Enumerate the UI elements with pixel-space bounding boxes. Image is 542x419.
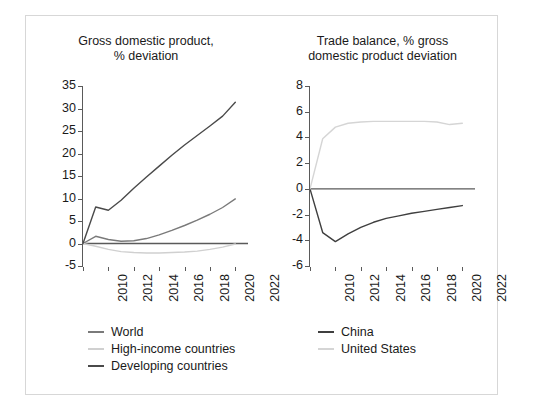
series-line xyxy=(310,189,462,242)
x-tick-label: 2012 xyxy=(369,274,381,302)
y-tick-label: -5 xyxy=(36,259,76,271)
x-tick-label: 2012 xyxy=(142,274,154,302)
chart-title-trade: Trade balance, % gross domestic product … xyxy=(266,34,499,64)
x-tick xyxy=(185,267,186,271)
legend-swatch xyxy=(88,365,104,367)
x-tick-label: 2020 xyxy=(244,274,256,302)
chart-panel-gdp: Gross domestic product, % deviation 3530… xyxy=(26,16,266,394)
y-tick xyxy=(78,131,82,132)
y-tick xyxy=(78,244,82,245)
legend-label: China xyxy=(341,325,374,339)
x-tick xyxy=(134,267,135,271)
x-tick xyxy=(210,267,211,271)
y-tick-label: 10 xyxy=(36,192,76,204)
x-tick-label: 2010 xyxy=(117,274,129,302)
y-axis-spine xyxy=(82,86,83,267)
y-tick xyxy=(305,266,309,267)
legend-swatch xyxy=(88,348,104,350)
y-tick xyxy=(78,199,82,200)
y-tick-label: 0 xyxy=(263,182,303,194)
legend-label: Developing countries xyxy=(111,359,228,373)
x-tick-label: 2016 xyxy=(193,274,205,302)
y-tick-label: 25 xyxy=(36,124,76,136)
series-line xyxy=(83,102,235,243)
x-tick-label: 2016 xyxy=(420,274,432,302)
plot-area-trade xyxy=(310,86,475,266)
x-tick-label: 2014 xyxy=(395,274,407,302)
legend-trade: ChinaUnited States xyxy=(318,324,416,358)
gdp-series-svg xyxy=(83,86,248,266)
chart-title-gdp-line2: % deviation xyxy=(26,49,266,64)
y-tick-label: 0 xyxy=(36,237,76,249)
legend-swatch xyxy=(318,348,334,350)
legend-label: High-income countries xyxy=(111,342,235,356)
x-tick xyxy=(235,267,236,271)
y-tick-label: -2 xyxy=(263,208,303,220)
y-tick xyxy=(305,112,309,113)
series-line xyxy=(83,199,235,244)
x-tick xyxy=(437,267,438,271)
legend-label: United States xyxy=(341,342,416,356)
y-tick-label: 4 xyxy=(263,130,303,142)
y-tick xyxy=(305,240,309,241)
x-tick-label: 2018 xyxy=(218,274,230,302)
chart-title-trade-line2: domestic product deviation xyxy=(266,49,499,64)
y-tick xyxy=(78,154,82,155)
x-tick-label: 2022 xyxy=(496,274,508,302)
chart-panel-trade: Trade balance, % gross domestic product … xyxy=(266,16,499,394)
series-line xyxy=(310,121,462,189)
legend-item: High-income countries xyxy=(88,341,235,356)
y-tick xyxy=(78,221,82,222)
y-tick xyxy=(78,176,82,177)
x-tick xyxy=(310,267,311,271)
y-tick xyxy=(78,86,82,87)
y-axis-spine xyxy=(309,86,310,267)
y-tick-label: 5 xyxy=(36,214,76,226)
chart-title-gdp: Gross domestic product, % deviation xyxy=(26,34,266,64)
legend-item: World xyxy=(88,324,235,339)
x-tick-label: 2018 xyxy=(445,274,457,302)
legend-swatch xyxy=(318,331,334,333)
x-tick xyxy=(159,267,160,271)
y-tick-label: 30 xyxy=(36,102,76,114)
y-tick-label: -6 xyxy=(263,259,303,271)
x-tick-label: 2010 xyxy=(344,274,356,302)
legend-swatch xyxy=(88,331,104,333)
x-tick-label: 2020 xyxy=(471,274,483,302)
x-tick xyxy=(386,267,387,271)
series-line xyxy=(83,244,235,253)
y-tick-label: 8 xyxy=(263,79,303,91)
y-tick-label: 35 xyxy=(36,79,76,91)
y-tick xyxy=(305,215,309,216)
legend-item: United States xyxy=(318,341,416,356)
y-tick-label: 2 xyxy=(263,156,303,168)
trade-series-svg xyxy=(310,86,475,266)
x-tick xyxy=(462,267,463,271)
legend-item: Developing countries xyxy=(88,358,235,373)
chart-title-gdp-line1: Gross domestic product, xyxy=(26,34,266,49)
legend-gdp: WorldHigh-income countriesDeveloping cou… xyxy=(88,324,235,375)
y-tick xyxy=(305,137,309,138)
x-tick xyxy=(108,267,109,271)
legend-item: China xyxy=(318,324,416,339)
x-tick xyxy=(83,267,84,271)
y-tick xyxy=(78,109,82,110)
x-tick-label: 2014 xyxy=(168,274,180,302)
plot-area-gdp xyxy=(83,86,248,266)
y-tick-label: 20 xyxy=(36,147,76,159)
y-tick xyxy=(305,86,309,87)
y-tick-label: -4 xyxy=(263,233,303,245)
y-tick xyxy=(78,266,82,267)
x-tick xyxy=(412,267,413,271)
legend-label: World xyxy=(111,325,143,339)
x-tick xyxy=(361,267,362,271)
y-tick-label: 15 xyxy=(36,169,76,181)
y-tick-label: 6 xyxy=(263,105,303,117)
chart-title-trade-line1: Trade balance, % gross xyxy=(266,34,499,49)
figure-frame: Gross domestic product, % deviation 3530… xyxy=(25,15,498,395)
x-tick xyxy=(335,267,336,271)
y-tick xyxy=(305,163,309,164)
y-tick xyxy=(305,189,309,190)
